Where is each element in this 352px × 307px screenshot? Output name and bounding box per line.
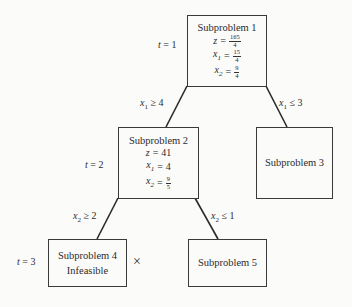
z-fraction: 1654 xyxy=(229,34,241,48)
edge-sp1-sp2 xyxy=(166,86,187,127)
time-label-3: t = 3 xyxy=(17,256,35,267)
pruned-cross-icon: × xyxy=(133,254,141,270)
node-subproblem-2: Subproblem 2 z = 41 x1 = 4 x2 = 95 xyxy=(118,127,199,199)
x1-fraction: 154 xyxy=(233,49,242,63)
node-subproblem-3: Subproblem 3 xyxy=(256,127,333,199)
node-title: Subproblem 3 xyxy=(265,157,324,169)
node-title: Subproblem 1 xyxy=(197,22,256,34)
x1-value-row: x1 = 4 xyxy=(146,159,171,175)
edge-sp2-sp4 xyxy=(97,198,118,239)
node-subproblem-5: Subproblem 5 xyxy=(188,239,267,287)
z-value-row: z = 41 xyxy=(146,147,172,159)
node-subproblem-1: Subproblem 1 z = 1654 x1 = 154 x2 = 94 xyxy=(187,15,267,87)
x2-fraction: 94 xyxy=(234,65,239,79)
x1-value-row: x1 = 154 xyxy=(213,48,241,64)
edge-label-x2-ge-2: x2 ≥ 2 xyxy=(73,210,96,224)
node-title: Subproblem 5 xyxy=(198,257,257,269)
z-value-row: z = 1654 xyxy=(213,34,240,48)
time-label-1: t = 1 xyxy=(158,39,176,50)
node-status: Infeasible xyxy=(67,265,108,277)
x2-value-row: x2 = 94 xyxy=(215,64,240,80)
node-title: Subproblem 4 xyxy=(58,250,117,262)
edge-label-x1-le-3: x1 ≤ 3 xyxy=(279,97,302,111)
node-title: Subproblem 2 xyxy=(129,135,188,147)
x2-value-row: x2 = 95 xyxy=(146,175,171,191)
edge-label-x2-le-1: x2 ≤ 1 xyxy=(211,210,234,224)
node-subproblem-4: Subproblem 4 Infeasible xyxy=(48,239,127,287)
edge-label-x1-ge-4: x1 ≥ 4 xyxy=(140,97,163,111)
time-label-2: t = 2 xyxy=(85,159,103,170)
x2-fraction: 95 xyxy=(166,176,171,190)
